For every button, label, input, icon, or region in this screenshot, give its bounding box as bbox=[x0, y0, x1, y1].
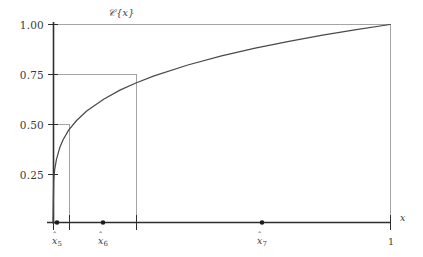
y-axis-title: 𝒞 {x} bbox=[108, 8, 134, 18]
figure-container: 𝒞 {x} 1.00 0.75 0.50 0.25 ˆx5 ˆx6 ˆx7 1 … bbox=[0, 0, 423, 257]
x-tick-label-x6: ˆx6 bbox=[88, 236, 118, 248]
marked-point-x7 bbox=[260, 220, 265, 225]
x7-hat-wrap: ˆx bbox=[257, 236, 263, 246]
hat-icon: ˆ bbox=[257, 232, 263, 241]
data-curve bbox=[53, 25, 390, 223]
x6-subscript: 6 bbox=[103, 240, 108, 248]
gridlines bbox=[53, 25, 391, 125]
y-tick-label-0.75: 0.75 bbox=[4, 70, 44, 81]
x-axis-title: x bbox=[400, 213, 406, 223]
marked-point-x6 bbox=[101, 220, 106, 225]
marked-point-x5 bbox=[55, 220, 60, 225]
x5-subscript: 5 bbox=[57, 240, 62, 248]
plot-canvas bbox=[0, 0, 423, 257]
hat-icon: ˆ bbox=[98, 232, 104, 241]
x6-hat-wrap: ˆx bbox=[98, 236, 104, 246]
x7-subscript: 7 bbox=[262, 240, 267, 248]
hat-icon: ˆ bbox=[52, 232, 58, 241]
y-axis-title-arg: {x} bbox=[115, 7, 134, 18]
x-tick-label-x7: ˆx7 bbox=[247, 236, 277, 248]
y-tick-label-1.00: 1.00 bbox=[4, 20, 44, 31]
x-end-label: 1 bbox=[381, 237, 401, 247]
x5-hat-wrap: ˆx bbox=[52, 236, 58, 246]
y-tick-label-0.50: 0.50 bbox=[4, 120, 44, 131]
y-tick-label-0.25: 0.25 bbox=[4, 170, 44, 181]
x-tick-label-x5: ˆx5 bbox=[42, 236, 72, 248]
